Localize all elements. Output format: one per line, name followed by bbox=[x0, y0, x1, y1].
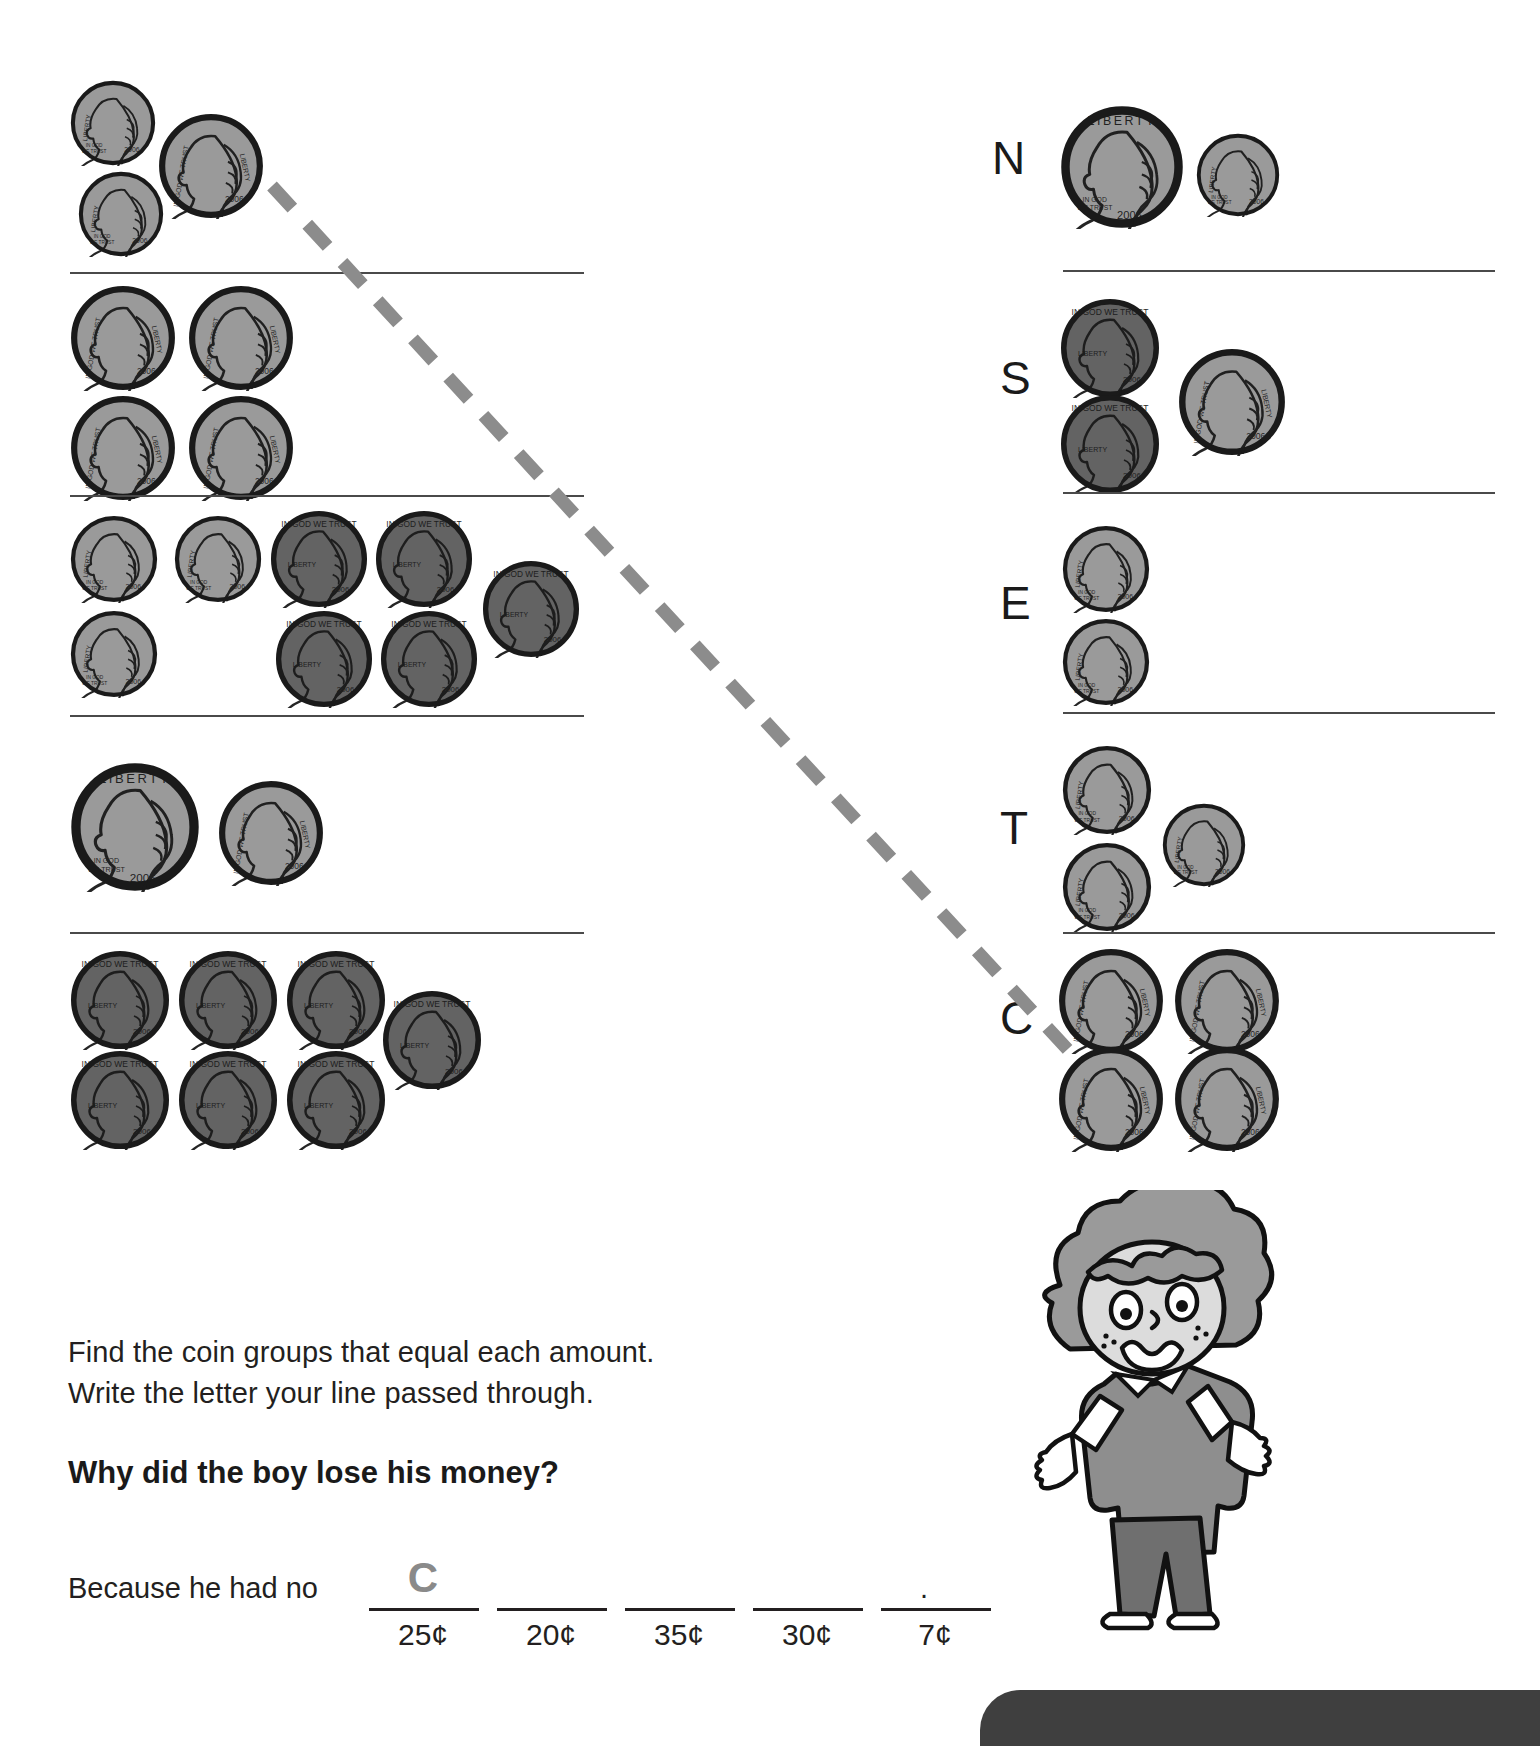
coin-penny: IN GOD WE TRUSTLIBERTY 2006 bbox=[178, 1050, 278, 1150]
svg-text:2006: 2006 bbox=[133, 1027, 151, 1036]
svg-text:WE TRUST: WE TRUST bbox=[1074, 596, 1099, 601]
boy-illustration bbox=[1000, 1190, 1300, 1640]
svg-text:2006: 2006 bbox=[126, 583, 142, 590]
svg-text:IN GOD WE TRUST: IN GOD WE TRUST bbox=[493, 569, 568, 579]
svg-text:IN GOD: IN GOD bbox=[1177, 865, 1194, 870]
svg-text:2006: 2006 bbox=[241, 1127, 259, 1136]
coin-dime: LIBERTY IN GOD WE TRUST 2006 bbox=[70, 610, 158, 698]
right-group-e[interactable]: LIBERTY IN GOD WE TRUST 2006 LIBERTY IN … bbox=[1062, 525, 1392, 705]
answer-blank-line-3 bbox=[625, 1608, 735, 1611]
coin-penny: IN GOD WE TRUSTLIBERTY 2006 bbox=[286, 950, 386, 1050]
svg-text:IN GOD WE TRUST: IN GOD WE TRUST bbox=[281, 519, 356, 529]
coin-dime: LIBERTY IN GOD WE TRUST 2006 bbox=[1196, 133, 1280, 217]
svg-text:2006: 2006 bbox=[241, 1027, 259, 1036]
left-group-3[interactable]: LIBERTY IN GOD WE TRUST 2006 LIBERTY IN … bbox=[70, 510, 600, 700]
coin-nickel: IN GOD WE TRUST LIBERTY 2006 bbox=[218, 780, 324, 886]
coin-dime: LIBERTY IN GOD WE TRUST 2006 bbox=[1162, 803, 1246, 887]
instruction-line-1: Find the coin groups that equal each amo… bbox=[68, 1332, 654, 1373]
svg-text:WE TRUST: WE TRUST bbox=[1077, 204, 1112, 211]
svg-text:IN GOD: IN GOD bbox=[1078, 908, 1096, 913]
svg-text:IN GOD WE TRUST: IN GOD WE TRUST bbox=[391, 619, 466, 629]
svg-text:WE TRUST: WE TRUST bbox=[88, 867, 126, 875]
coin-nickel: IN GOD WE TRUST LIBERTY 2006 bbox=[1178, 348, 1286, 456]
svg-text:IN GOD: IN GOD bbox=[86, 580, 104, 585]
answer-slot-4[interactable]: 30¢ bbox=[749, 1560, 865, 1670]
svg-text:2006: 2006 bbox=[1125, 1127, 1144, 1137]
svg-text:2006: 2006 bbox=[1118, 593, 1134, 600]
instructions: Find the coin groups that equal each amo… bbox=[68, 1332, 654, 1414]
letter-t: T bbox=[1000, 805, 1028, 851]
coin-dime: LIBERTY IN GOD WE TRUST 2006 bbox=[174, 515, 262, 603]
svg-text:IN GOD WE TRUST: IN GOD WE TRUST bbox=[82, 959, 159, 969]
answer-slot-2[interactable]: 20¢ bbox=[493, 1560, 609, 1670]
coin-penny: IN GOD WE TRUSTLIBERTY 2006 bbox=[275, 610, 373, 708]
coin-nickel: IN GOD WE TRUST LIBERTY 2006 bbox=[70, 395, 176, 501]
svg-text:WE TRUST: WE TRUST bbox=[82, 681, 107, 686]
left-group-2[interactable]: IN GOD WE TRUST LIBERTY 2006 IN GOD WE T… bbox=[70, 285, 590, 480]
svg-text:2006: 2006 bbox=[225, 194, 244, 204]
left-group-4[interactable]: LIBERTY IN GOD WE TRUST2006 IN GOD WE TR… bbox=[70, 762, 590, 912]
svg-text:2006: 2006 bbox=[442, 685, 460, 694]
svg-text:IN GOD WE TRUST: IN GOD WE TRUST bbox=[1072, 307, 1149, 317]
answer-amount-4: 30¢ bbox=[749, 1618, 865, 1652]
svg-text:IN GOD WE TRUST: IN GOD WE TRUST bbox=[190, 959, 267, 969]
answer-slot-5[interactable]: 7¢ bbox=[877, 1560, 993, 1670]
right-group-n[interactable]: LIBERTY IN GOD WE TRUST2006 LIBERTY IN G… bbox=[1060, 105, 1390, 245]
svg-text:2006: 2006 bbox=[133, 1127, 151, 1136]
right-group-s[interactable]: IN GOD WE TRUSTLIBERTY 2006 IN GOD WE TR… bbox=[1060, 298, 1390, 478]
svg-text:2006: 2006 bbox=[124, 146, 139, 153]
coin-penny: IN GOD WE TRUSTLIBERTY 2006 bbox=[380, 610, 478, 708]
svg-text:IN GOD WE TRUST: IN GOD WE TRUST bbox=[190, 1059, 267, 1069]
page-footer-bar bbox=[980, 1690, 1540, 1746]
coin-penny: IN GOD WE TRUSTLIBERTY 2006 bbox=[1060, 298, 1160, 398]
left-rule-4 bbox=[70, 932, 584, 934]
coin-penny: IN GOD WE TRUSTLIBERTY 2006 bbox=[286, 1050, 386, 1150]
letter-n: N bbox=[992, 135, 1025, 181]
coin-nickel: IN GOD WE TRUST LIBERTY 2006 bbox=[188, 285, 294, 391]
svg-text:2006: 2006 bbox=[337, 685, 355, 694]
right-group-c[interactable]: IN GOD WE TRUST LIBERTY 2006 IN GOD WE T… bbox=[1058, 948, 1398, 1143]
svg-text:IN GOD: IN GOD bbox=[1211, 195, 1228, 200]
coin-dime: LIBERTY IN GOD WE TRUST 2006 bbox=[78, 171, 164, 257]
svg-text:IN GOD: IN GOD bbox=[1078, 683, 1096, 688]
right-rule-s bbox=[1063, 492, 1495, 494]
left-rule-1 bbox=[70, 272, 584, 274]
svg-text:2006: 2006 bbox=[445, 1067, 463, 1076]
svg-text:2006: 2006 bbox=[137, 366, 156, 376]
svg-text:IN GOD WE TRUST: IN GOD WE TRUST bbox=[298, 1059, 375, 1069]
answer-slot-3[interactable]: 35¢ bbox=[621, 1560, 737, 1670]
svg-text:2006: 2006 bbox=[332, 585, 350, 594]
answer-blank-line-2 bbox=[497, 1608, 607, 1611]
svg-text:IN GOD WE TRUST: IN GOD WE TRUST bbox=[386, 519, 461, 529]
svg-text:2006: 2006 bbox=[1119, 814, 1135, 823]
right-group-t[interactable]: LIBERTY IN GOD WE TRUST 2006 LIBERTY IN … bbox=[1062, 745, 1392, 930]
svg-text:2006: 2006 bbox=[437, 585, 455, 594]
svg-text:IN GOD: IN GOD bbox=[94, 234, 111, 239]
svg-text:WE TRUST: WE TRUST bbox=[82, 586, 107, 591]
svg-text:IN GOD: IN GOD bbox=[1078, 590, 1096, 595]
riddle-question: Why did the boy lose his money? bbox=[68, 1455, 559, 1491]
answer-amount-1: 25¢ bbox=[365, 1618, 481, 1652]
coin-nickel: IN GOD WE TRUST LIBERTY 2006 bbox=[188, 395, 294, 501]
svg-text:IN GOD: IN GOD bbox=[94, 857, 119, 865]
svg-text:2006: 2006 bbox=[255, 366, 274, 376]
svg-text:2006: 2006 bbox=[1118, 686, 1134, 693]
answer-slot-1[interactable]: C 25¢ bbox=[365, 1560, 481, 1670]
svg-text:IN GOD WE TRUST: IN GOD WE TRUST bbox=[298, 959, 375, 969]
svg-text:LIBERTY: LIBERTY bbox=[1088, 114, 1157, 128]
right-rule-t bbox=[1063, 932, 1495, 934]
svg-text:IN GOD: IN GOD bbox=[1083, 196, 1107, 203]
svg-text:2006: 2006 bbox=[544, 635, 562, 644]
left-group-5[interactable]: IN GOD WE TRUSTLIBERTY 2006 IN GOD WE TR… bbox=[70, 950, 600, 1160]
svg-text:IN GOD WE TRUST: IN GOD WE TRUST bbox=[394, 999, 471, 1009]
svg-text:2006: 2006 bbox=[1215, 868, 1230, 875]
left-rule-2 bbox=[70, 495, 584, 497]
answer-blank-line-4 bbox=[753, 1608, 863, 1611]
instruction-line-2: Write the letter your line passed throug… bbox=[68, 1373, 654, 1414]
coin-dime: LIBERTY IN GOD WE TRUST 2006 bbox=[1062, 842, 1152, 932]
left-group-1[interactable]: LIBERTY IN GOD WE TRUST 2006 LIBERTY IN … bbox=[70, 75, 590, 275]
right-rule-n bbox=[1063, 270, 1495, 272]
svg-text:2006: 2006 bbox=[230, 583, 246, 590]
coin-dime: LIBERTY IN GOD WE TRUST 2006 bbox=[1062, 525, 1150, 613]
coin-penny: IN GOD WE TRUSTLIBERTY 2006 bbox=[70, 950, 170, 1050]
